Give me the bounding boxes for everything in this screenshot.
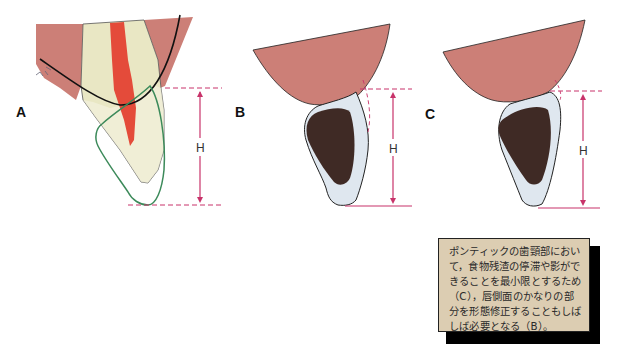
panel-a-illustration bbox=[36, 15, 222, 205]
pontic-body-c bbox=[498, 107, 550, 184]
panel-b-illustration bbox=[253, 24, 412, 206]
measure-label-a: H bbox=[196, 141, 205, 155]
measure-label-b: H bbox=[389, 142, 398, 156]
panel-label-b: B bbox=[235, 104, 245, 120]
measure-label-c: H bbox=[579, 144, 588, 158]
panel-label-a: A bbox=[16, 104, 26, 120]
pontic-body-b bbox=[306, 108, 354, 184]
panel-c-illustration bbox=[443, 20, 602, 208]
gingiva-b bbox=[253, 24, 390, 105]
caption-text: ポンティックの歯頸部において，食物残渣の停滞や影ができることを最小限とするため（… bbox=[449, 245, 582, 332]
panel-label-c: C bbox=[425, 106, 435, 122]
gingiva-c bbox=[443, 20, 585, 102]
caption-box: ポンティックの歯頸部において，食物残渣の停滞や影ができることを最小限とするため（… bbox=[438, 238, 590, 332]
